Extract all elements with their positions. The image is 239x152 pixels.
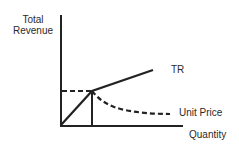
- x-axis-label: Quantity: [189, 129, 226, 140]
- tr-line: [61, 70, 153, 125]
- unit-price-curve: [92, 91, 170, 114]
- unit-price-series-label: Unit Price: [179, 107, 222, 118]
- tr-series-label: TR: [171, 64, 184, 75]
- revenue-diagram: Total Revenue TR Unit Price Quantity: [0, 0, 239, 152]
- y-axis-label: Total Revenue: [10, 14, 56, 36]
- y-axis-label-line1: Total: [10, 14, 56, 25]
- y-axis-label-line2: Revenue: [10, 25, 56, 36]
